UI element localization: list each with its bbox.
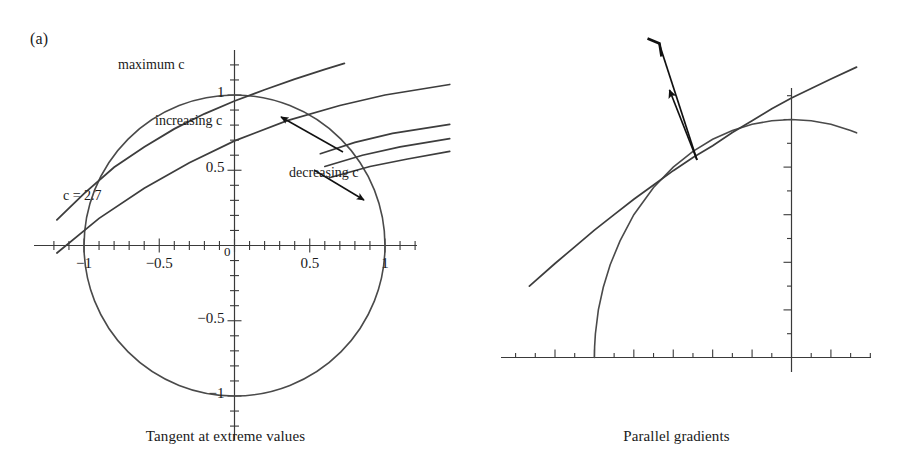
panel-b-caption: Parallel gradients	[451, 428, 902, 445]
annotation-maximum-c-text: maximum c	[118, 57, 185, 72]
panel-b-parallel-gradients: (b) ∇f ∇g −1.2−1.0−0.8−0.6−0.4−0.200.20.…	[451, 0, 902, 471]
axis-tick-label: −1	[76, 255, 92, 272]
panel-b-plot	[451, 0, 902, 471]
y-axis-ticks	[784, 96, 792, 334]
axis-tick-label: 0.5	[300, 255, 319, 272]
tangent-level-curve	[529, 67, 856, 286]
annotation-increasing-c: increasing c	[155, 113, 222, 129]
panel-a-label: (a)	[30, 30, 48, 48]
lagrange-multipliers-figure: (a) maximum c increasing c decreasing c …	[0, 0, 902, 471]
annotation-c-value: c = 2.7	[63, 188, 102, 204]
annotation-decreasing-c-text: decreasing c	[289, 165, 359, 180]
axis-tick-label: −1	[209, 385, 225, 402]
axis-tick-label: 1	[217, 84, 225, 101]
annotation-c-value-text: c = 2.7	[63, 188, 102, 203]
panel-a-tangent-at-extreme-values: (a) maximum c increasing c decreasing c …	[0, 0, 451, 471]
annotation-increasing-c-text: increasing c	[155, 113, 222, 128]
axis-tick-label: 1	[381, 255, 389, 272]
grad-g-arrow	[670, 90, 698, 160]
panel-a-plot	[0, 0, 451, 471]
x-axis-ticks	[516, 350, 871, 358]
level-curve-family	[57, 63, 450, 253]
axis-tick-label: 0	[224, 244, 231, 260]
axis-tick-label: 0.5	[206, 159, 225, 176]
axis-tick-label: −0.5	[197, 310, 224, 327]
annotation-maximum-c: maximum c	[118, 57, 185, 73]
level-curve	[57, 84, 450, 253]
axis-tick-label: −0.5	[146, 255, 173, 272]
constraint-circle-arc-curve	[594, 120, 856, 358]
annotation-decreasing-c: decreasing c	[289, 165, 359, 181]
increasing-c-arrow	[281, 117, 343, 152]
panel-a-caption: Tangent at extreme values	[0, 428, 451, 445]
